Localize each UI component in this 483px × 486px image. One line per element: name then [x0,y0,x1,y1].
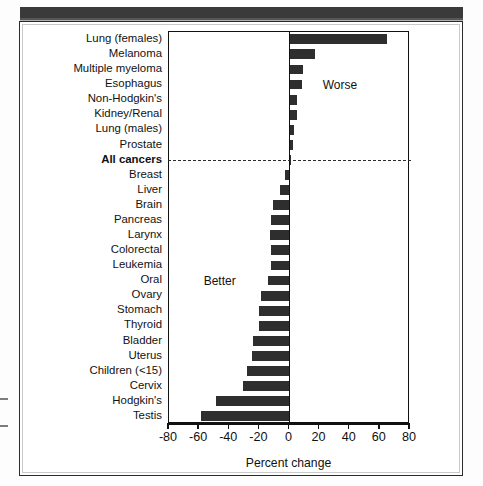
category-label: Oral [140,272,162,287]
category-label: Leukemia [113,257,162,272]
figure-page: Lung (females)MelanomaMultiple myelomaEs… [0,0,483,486]
annotation-worse: Worse [323,78,357,92]
annotation-better: Better [204,274,236,288]
bar [259,321,289,331]
x-tick [197,423,198,429]
bar [290,80,302,90]
x-tick-label: -80 [159,430,177,444]
bar [271,245,289,255]
x-tick-label: -40 [219,430,237,444]
category-label: Stomach [117,302,162,317]
bar [253,336,289,346]
category-label: Testis [133,408,162,423]
bar [270,230,290,240]
category-label: Breast [129,167,162,182]
category-label: Lung (females) [86,31,162,46]
category-label: Non-Hodgkin's [88,91,162,106]
x-tick-label: 40 [342,430,356,444]
all-cancers-reference-line [168,160,411,161]
category-label: Thyroid [124,317,162,332]
x-tick-label: -60 [189,430,207,444]
category-label: Ovary [132,287,162,302]
category-label: Lung (males) [96,121,162,136]
x-tick-label: 80 [402,430,416,444]
x-tick [378,423,379,429]
x-tick-label: 0 [285,430,292,444]
bar [271,261,289,271]
category-label: Prostate [120,137,162,152]
plot-area: Worse Better [168,31,409,423]
x-tick [348,423,349,429]
category-label: Esophagus [105,76,162,91]
x-tick-label: -20 [249,430,267,444]
bar [216,396,290,406]
bar [290,95,298,105]
x-tick [167,423,168,429]
bar [290,34,388,44]
x-tick [318,423,319,429]
bar [271,215,289,225]
category-label: Colorectal [111,242,162,257]
x-tick [228,423,229,429]
bar [259,306,289,316]
bar [252,351,290,361]
category-label: All cancers [101,152,162,167]
bar [243,381,290,391]
category-label: Bladder [123,333,162,348]
bar [273,200,290,210]
bar [290,49,316,59]
bar [290,65,304,75]
category-label: Pancreas [114,212,162,227]
x-tick-label: 60 [372,430,386,444]
bar [247,366,289,376]
bar [201,411,290,421]
category-label: Cervix [130,378,162,393]
category-label: Brain [135,197,162,212]
x-tick [408,423,409,429]
x-tick [258,423,259,429]
category-label: Uterus [128,348,162,363]
category-label: Liver [137,182,162,197]
category-label: Children (<15) [90,363,163,378]
margin-tick-1 [0,398,8,400]
category-axis-labels: Lung (females)MelanomaMultiple myelomaEs… [18,31,166,423]
category-label: Larynx [128,227,162,242]
category-label: Kidney/Renal [94,106,162,121]
x-tick [288,423,289,429]
category-label: Multiple myeloma [73,61,162,76]
category-label: Hodgkin's [112,393,162,408]
x-tick-label: 20 [312,430,326,444]
bar [268,276,289,286]
category-label: Melanoma [109,46,162,61]
bar [261,291,290,301]
bar [290,110,298,120]
zero-axis-line [289,32,291,422]
margin-tick-2 [0,425,8,427]
x-axis-title: Percent change [168,456,409,470]
